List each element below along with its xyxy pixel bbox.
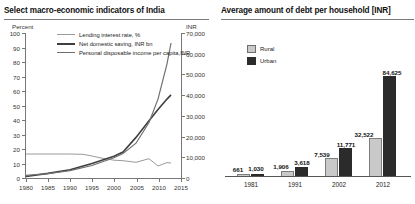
legend-line-icon bbox=[57, 43, 75, 45]
y2-tick bbox=[182, 137, 185, 138]
x-tick bbox=[114, 179, 115, 182]
y-tick-label: 30 bbox=[0, 132, 20, 139]
x-tick bbox=[181, 179, 182, 182]
legend-item-rural: Rural bbox=[247, 44, 276, 53]
legend-item-lending-interest-rate: Lending interest rate, % bbox=[57, 31, 190, 38]
bar-value-urban-2012: 84,625 bbox=[375, 69, 409, 76]
y-tick bbox=[22, 135, 25, 136]
y2-tick-label: 50,000 bbox=[186, 71, 212, 78]
x-tick bbox=[159, 179, 160, 182]
left-title-divider bbox=[4, 19, 209, 20]
series-personal-disposable-income bbox=[26, 43, 171, 175]
x-tick-label: 1990 bbox=[58, 184, 82, 191]
y-tick-label: 40 bbox=[0, 117, 20, 124]
y-tick bbox=[22, 91, 25, 92]
bar-value-rural-2002: 7,539 bbox=[305, 151, 339, 158]
x-tick-label: 1995 bbox=[80, 184, 104, 191]
bar-chart-baseline bbox=[225, 176, 411, 177]
bar-group-label-1981: 1981 bbox=[231, 181, 271, 188]
bar-group-label-2012: 2012 bbox=[363, 181, 403, 188]
bar-urban-2002 bbox=[339, 148, 352, 176]
right-axis-unit-label: INR bbox=[186, 23, 197, 30]
y-tick-label: 90 bbox=[0, 45, 20, 52]
y-tick-label: 70 bbox=[0, 74, 20, 81]
y2-tick bbox=[182, 178, 185, 179]
y2-tick bbox=[182, 116, 185, 117]
bar-urban-1981 bbox=[251, 174, 264, 177]
left-chart-panel: Select macro-economic indicators of Indi… bbox=[0, 0, 214, 204]
y-tick bbox=[22, 120, 25, 121]
series-lending-interest-rate bbox=[26, 154, 171, 166]
bar-value-urban-2002: 11,771 bbox=[329, 141, 363, 148]
legend-label: Net domestic saving, INR bn bbox=[79, 41, 152, 47]
y-tick-label: 80 bbox=[0, 59, 20, 66]
y-tick bbox=[22, 33, 25, 34]
legend-label: Lending interest rate, % bbox=[79, 32, 140, 38]
y-tick bbox=[22, 77, 25, 78]
legend-line-icon bbox=[57, 52, 75, 54]
legend-item-net-domestic-saving: Net domestic saving, INR bn bbox=[57, 40, 190, 47]
y-tick bbox=[22, 178, 25, 179]
x-tick bbox=[70, 179, 71, 182]
y-tick bbox=[22, 48, 25, 49]
legend-label: Urban bbox=[260, 58, 276, 64]
screenshot-root: Select macro-economic indicators of Indi… bbox=[0, 0, 415, 204]
series-net-domestic-saving bbox=[26, 95, 171, 177]
y2-tick bbox=[182, 157, 185, 158]
y2-tick-label: 0 bbox=[186, 175, 212, 182]
x-tick bbox=[92, 179, 93, 182]
y-tick bbox=[22, 164, 25, 165]
y-tick-label: 20 bbox=[0, 146, 20, 153]
y-tick-label: 100 bbox=[0, 30, 20, 37]
y-tick-label: 50 bbox=[0, 103, 20, 110]
left-axis-unit-label: Percent bbox=[12, 23, 33, 30]
bar-rural-2002 bbox=[325, 158, 338, 176]
left-chart-title: Select macro-economic indicators of Indi… bbox=[4, 6, 165, 15]
x-tick bbox=[26, 179, 27, 182]
bar-group-label-1991: 1991 bbox=[275, 181, 315, 188]
y-tick-label: 0 bbox=[0, 175, 20, 182]
x-tick bbox=[137, 179, 138, 182]
y2-tick bbox=[182, 74, 185, 75]
right-chart-legend: Rural Urban bbox=[247, 44, 276, 68]
legend-swatch-rural-icon bbox=[247, 45, 256, 53]
bar-value-urban-1991: 3,618 bbox=[285, 159, 319, 166]
y-tick bbox=[22, 149, 25, 150]
y-tick-label: 10 bbox=[0, 161, 20, 168]
x-tick-label: 2015 bbox=[169, 184, 193, 191]
y2-tick-label: 30,000 bbox=[186, 113, 212, 120]
left-chart-legend: Lending interest rate, % Net domestic sa… bbox=[57, 31, 190, 58]
x-tick-label: 2005 bbox=[125, 184, 149, 191]
legend-item-personal-disposable-income: Personal disposable income per capita,IN… bbox=[57, 49, 190, 56]
legend-line-icon bbox=[57, 34, 75, 35]
x-tick-label: 2010 bbox=[147, 184, 171, 191]
x-tick-label: 1980 bbox=[14, 184, 38, 191]
y2-tick-label: 40,000 bbox=[186, 92, 212, 99]
bar-group-2002 bbox=[325, 145, 352, 176]
x-tick-label: 1985 bbox=[36, 184, 60, 191]
y2-tick bbox=[182, 95, 185, 96]
y-tick bbox=[22, 62, 25, 63]
x-tick-label: 2000 bbox=[102, 184, 126, 191]
x-tick bbox=[48, 179, 49, 182]
bar-value-rural-2012: 32,522 bbox=[347, 131, 381, 138]
bar-rural-2012 bbox=[369, 138, 382, 176]
y2-tick-label: 20,000 bbox=[186, 134, 212, 141]
legend-label: Personal disposable income per capita,IN… bbox=[79, 50, 190, 56]
y-tick-label: 60 bbox=[0, 88, 20, 95]
bar-group-label-2002: 2002 bbox=[319, 181, 359, 188]
y-tick bbox=[22, 106, 25, 107]
right-chart-title: Average amount of debt per household [IN… bbox=[221, 6, 391, 15]
bar-urban-2012 bbox=[383, 76, 396, 176]
bar-group-2012 bbox=[369, 76, 396, 176]
legend-label: Rural bbox=[260, 46, 274, 52]
legend-item-urban: Urban bbox=[247, 56, 276, 65]
right-chart-panel: Average amount of debt per household [IN… bbox=[215, 0, 415, 204]
bar-rural-1991 bbox=[281, 171, 294, 176]
right-title-divider bbox=[221, 19, 414, 20]
bar-rural-1981 bbox=[237, 174, 250, 176]
y2-tick-label: 10,000 bbox=[186, 154, 212, 161]
legend-swatch-urban-icon bbox=[247, 57, 256, 65]
